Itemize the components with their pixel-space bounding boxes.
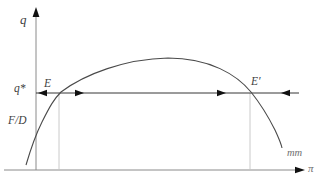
economics-diagram: q π q* F/D E E′ mm (0, 0, 323, 184)
flow-arrow-left-of-E-icon (38, 90, 47, 96)
mm-curve-label: mm (287, 147, 303, 158)
equilibrium-E-prime-label: E′ (250, 75, 261, 87)
x-axis-arrowhead-icon (295, 167, 305, 173)
mm-curve (26, 58, 282, 165)
figure-canvas: q π q* F/D E E′ mm (0, 0, 323, 184)
fd-intercept-label: F/D (7, 114, 27, 126)
y-axis-label: q (20, 12, 27, 27)
flow-arrow-left-of-E-prime-icon (217, 90, 226, 96)
qstar-value-label: q* (14, 82, 26, 95)
flow-arrow-right-of-E-icon (75, 90, 84, 96)
x-axis-label: π (308, 162, 314, 174)
y-axis-arrowhead-icon (33, 7, 40, 17)
flow-arrow-right-of-E-prime-icon (281, 90, 290, 96)
equilibrium-E-label: E (43, 77, 51, 89)
